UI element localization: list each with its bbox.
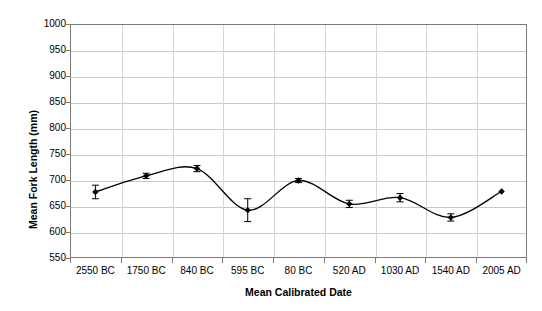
x-axis-tick bbox=[324, 258, 325, 263]
x-axis-tick bbox=[375, 258, 376, 263]
x-axis-tick-label: 1750 BC bbox=[127, 265, 166, 277]
series-line bbox=[95, 167, 501, 218]
x-axis-tick bbox=[121, 258, 122, 263]
data-point-marker bbox=[92, 189, 98, 195]
x-axis-tick-label: 2005 AD bbox=[482, 265, 520, 277]
y-axis-tick-label: 700 bbox=[22, 175, 66, 185]
x-axis-tick-label: 1540 AD bbox=[432, 265, 470, 277]
fork-length-chart: Mean Fork Length (mm) 550600650700750800… bbox=[0, 0, 542, 311]
x-axis-tick-labels: 2550 BC1750 BC840 BC595 BC80 BC520 AD103… bbox=[70, 265, 527, 281]
x-axis-tick bbox=[273, 258, 274, 263]
y-axis-tick-label: 900 bbox=[22, 71, 66, 81]
data-point-marker bbox=[397, 194, 403, 200]
x-axis-tick bbox=[172, 258, 173, 263]
x-axis-tick bbox=[70, 258, 71, 263]
data-point-marker bbox=[448, 214, 454, 220]
x-axis-tick-label: 840 BC bbox=[180, 265, 213, 277]
data-point-marker bbox=[346, 201, 352, 207]
y-axis-tick-label: 950 bbox=[22, 45, 66, 55]
x-axis-tick-label: 2550 BC bbox=[76, 265, 115, 277]
x-axis-tick-label: 80 BC bbox=[285, 265, 313, 277]
y-axis-tick-label: 600 bbox=[22, 227, 66, 237]
x-axis-tick bbox=[476, 258, 477, 263]
x-axis-tick-label: 1030 AD bbox=[381, 265, 419, 277]
x-axis-tick-label: 520 AD bbox=[333, 265, 366, 277]
x-axis-tick bbox=[526, 258, 527, 263]
y-axis-tick-labels: 5506006507007508008509009501000 bbox=[18, 24, 66, 258]
data-point-marker bbox=[245, 207, 251, 213]
x-axis-title: Mean Calibrated Date bbox=[70, 286, 527, 298]
y-axis-tick-label: 850 bbox=[22, 97, 66, 107]
x-axis-tick bbox=[222, 258, 223, 263]
y-axis-tick-label: 750 bbox=[22, 149, 66, 159]
data-point-marker bbox=[194, 165, 200, 171]
y-axis-tick-label: 800 bbox=[22, 123, 66, 133]
y-axis-tick-label: 650 bbox=[22, 201, 66, 211]
data-series-layer bbox=[70, 24, 527, 258]
x-axis-tick bbox=[425, 258, 426, 263]
y-axis-tick-label: 1000 bbox=[22, 19, 66, 29]
data-point-marker bbox=[498, 188, 504, 194]
x-axis-tick-label: 595 BC bbox=[231, 265, 264, 277]
y-axis-tick-label: 550 bbox=[22, 253, 66, 263]
x-axis-tick-marks bbox=[70, 258, 527, 263]
